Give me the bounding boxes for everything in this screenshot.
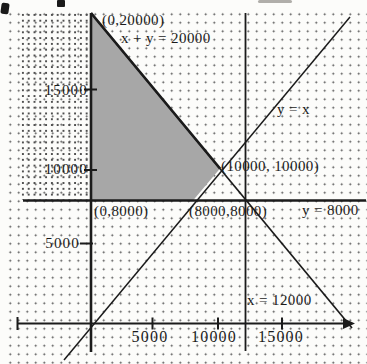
x-axis-tick-label-15000: 15000 [246, 329, 316, 346]
scan-artifact-mark [57, 0, 65, 7]
x-axis-tick-label-10000: 10000 [179, 329, 249, 346]
x-axis-arrowhead-icon [343, 318, 355, 329]
scan-artifact-mark [0, 2, 9, 14]
scan-artifact-smudge [258, 0, 292, 3]
equation-label-y-8000: y = 8000 [302, 203, 359, 219]
feasible-region-figure: (0,20000) x + y = 20000 y = x (10000, 10… [0, 0, 367, 364]
y-axis-tick-label-10000: 10000 [30, 162, 88, 178]
y-axis-tick-label-5000: 5000 [22, 236, 80, 252]
plot-svg [0, 0, 367, 364]
y-axis-tick-label-15000: 15000 [30, 83, 88, 99]
point-label-10000-10000: (10000, 10000) [221, 159, 319, 175]
point-label-0-20000: (0,20000) [102, 13, 164, 29]
point-label-0-8000: (0,8000) [94, 204, 148, 220]
equation-label-x-plus-y-20000: x + y = 20000 [121, 31, 211, 47]
point-label-8000-8000: (8000,8000) [189, 204, 267, 220]
equation-label-x-12000: x = 12000 [247, 293, 312, 309]
x-axis-tick-label-5000: 5000 [115, 329, 185, 346]
equation-label-y-equals-x: y = x [277, 102, 310, 118]
